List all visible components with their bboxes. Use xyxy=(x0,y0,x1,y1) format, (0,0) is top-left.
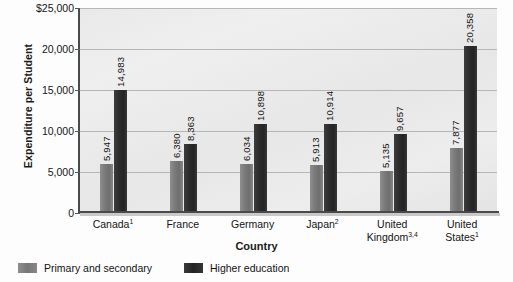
bar-group: 5,94714,983 xyxy=(80,8,150,213)
bar-primary-secondary[interactable] xyxy=(450,148,463,213)
x-axis-title: Country xyxy=(0,240,513,252)
bar-group: 6,03410,898 xyxy=(220,8,290,213)
bar-value-label: 9,657 xyxy=(394,106,405,131)
bar-value-label: 20,358 xyxy=(464,13,475,43)
bar-value-label: 6,034 xyxy=(241,136,252,161)
bar-value-label: 7,877 xyxy=(450,121,461,146)
bar-primary-secondary[interactable] xyxy=(170,161,183,213)
footnote-marker: 2 xyxy=(335,218,339,225)
y-axis-tick-label: 0 xyxy=(16,207,74,219)
legend-swatch-higher-education xyxy=(184,263,203,273)
x-tick-line: United xyxy=(427,218,497,231)
bar-primary-secondary[interactable] xyxy=(240,164,253,213)
x-axis-tick-label: Germany xyxy=(218,218,288,231)
bar-value-label: 6,380 xyxy=(171,133,182,158)
bar-value-label: 5,135 xyxy=(380,143,391,168)
y-axis-tick-label: 15,000 xyxy=(16,84,74,96)
footnote-marker: 1 xyxy=(129,218,133,225)
y-axis-tick-mark xyxy=(75,213,80,214)
y-axis-tick-label: $25,000 xyxy=(16,2,74,14)
bar-higher-education[interactable] xyxy=(324,124,337,213)
x-axis-line xyxy=(78,211,499,213)
bar-value-label: 5,947 xyxy=(101,136,112,161)
legend-label: Primary and secondary xyxy=(44,262,152,274)
bar-primary-secondary[interactable] xyxy=(380,171,393,213)
bar-group: 5,91310,914 xyxy=(290,8,360,213)
legend-label: Higher education xyxy=(210,262,289,274)
footnote-marker: 1 xyxy=(475,230,479,237)
bar-value-label: 10,914 xyxy=(324,90,335,120)
chart-legend: Primary and secondaryHigher education xyxy=(18,261,513,277)
bar-higher-education[interactable] xyxy=(114,90,127,213)
bar-value-label: 14,983 xyxy=(115,57,126,87)
bar-group: 5,1359,657 xyxy=(359,8,429,213)
bar-higher-education[interactable] xyxy=(184,144,197,213)
footnote-marker: 3,4 xyxy=(408,230,417,237)
bar-value-label: 8,363 xyxy=(185,117,196,142)
x-axis-tick-label: Japan2 xyxy=(288,218,358,231)
y-axis-tick-label: 5,000 xyxy=(16,166,74,178)
bar-chart-figure: Expenditure per Student 05,00010,00015,0… xyxy=(0,0,513,282)
legend-item[interactable]: Higher education xyxy=(184,261,289,275)
bar-value-label: 5,913 xyxy=(310,137,321,162)
legend-item[interactable]: Primary and secondary xyxy=(18,261,152,275)
bar-group: 6,3808,363 xyxy=(150,8,220,213)
x-tick-line: United xyxy=(357,218,427,231)
y-axis-tick-label: 10,000 xyxy=(16,125,74,137)
plot-area: 5,94714,9836,3808,3636,03410,8985,91310,… xyxy=(78,8,497,213)
x-axis-tick-label: France xyxy=(148,218,218,231)
bar-primary-secondary[interactable] xyxy=(310,165,323,213)
bar-higher-education[interactable] xyxy=(254,124,267,213)
bar-value-label: 10,898 xyxy=(255,90,266,120)
legend-swatch-primary-secondary xyxy=(18,263,37,273)
y-axis-tick-label: 20,000 xyxy=(16,43,74,55)
bar-primary-secondary[interactable] xyxy=(100,164,113,213)
bar-group: 7,87720,358 xyxy=(429,8,499,213)
bar-higher-education[interactable] xyxy=(394,134,407,213)
bar-higher-education[interactable] xyxy=(464,46,477,213)
x-axis-tick-label: Canada1 xyxy=(78,218,148,231)
